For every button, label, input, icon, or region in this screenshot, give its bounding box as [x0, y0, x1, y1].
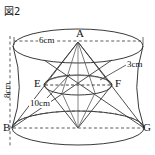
mid-radius-leader-line [100, 65, 126, 80]
cone-upper-edge-front-left [62, 42, 78, 93]
cone-lower-edge-right [44, 60, 144, 128]
dimension-label-height: 8cm [3, 83, 12, 99]
cone-lower-edge-left [12, 60, 112, 128]
dimension-label-top-diameter: 6cm [38, 36, 56, 45]
dimension-label-mid-radius: 3cm [127, 60, 143, 69]
base-centre-to-front-right [78, 93, 95, 128]
point-label-G: G [143, 122, 151, 133]
point-label-B: B [3, 122, 10, 133]
point-label-A: A [76, 28, 84, 39]
dimension-label-slant: 10cm [29, 99, 51, 108]
figure-container: 図2 [0, 0, 155, 155]
point-label-F: F [115, 78, 121, 89]
geometry-drawing [0, 0, 155, 155]
base-centre-to-F [78, 85, 112, 128]
left-silhouette [12, 46, 19, 128]
point-label-E: E [34, 78, 41, 89]
